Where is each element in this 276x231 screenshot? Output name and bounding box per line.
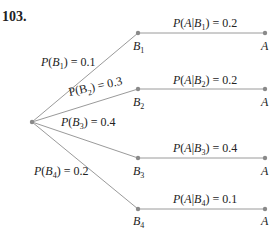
a1-node bbox=[263, 31, 267, 35]
b-symbol: B bbox=[72, 115, 79, 129]
a2-node bbox=[263, 87, 267, 91]
b2-node bbox=[136, 87, 140, 91]
b3-label: B3 bbox=[133, 165, 144, 180]
p-a-given-b4-label: P(A|B4) = 0.1 bbox=[173, 193, 237, 208]
edge-root-b1 bbox=[32, 33, 138, 122]
a-symbol: A bbox=[184, 141, 191, 155]
p-b3-label: P(B3) = 0.4 bbox=[61, 116, 115, 131]
p-a-given-b1-label: P(A|B1) = 0.2 bbox=[173, 17, 237, 32]
p-symbol: P bbox=[173, 16, 180, 30]
p-symbol: P bbox=[173, 192, 180, 206]
a-symbol: A bbox=[184, 73, 191, 87]
p-symbol: P bbox=[61, 115, 68, 129]
a2-label: A bbox=[261, 96, 268, 108]
root-node bbox=[30, 120, 34, 124]
a-symbol: A bbox=[184, 16, 191, 30]
problem-number: 103. bbox=[2, 9, 27, 25]
p-symbol: P bbox=[173, 73, 180, 87]
p-symbol: P bbox=[41, 55, 48, 69]
b4-label: B4 bbox=[133, 215, 144, 230]
p-b1-value: 0.1 bbox=[80, 55, 95, 69]
a3-node bbox=[263, 156, 267, 160]
a3-label: A bbox=[261, 165, 268, 177]
b4-node bbox=[136, 207, 140, 211]
a4-node bbox=[263, 207, 267, 211]
p-b4-value: 0.2 bbox=[73, 164, 88, 178]
p-a-given-b2-value: 0.2 bbox=[222, 73, 237, 87]
p-a-given-b4-value: 0.1 bbox=[222, 192, 237, 206]
p-a-given-b3-label: P(A|B3) = 0.4 bbox=[173, 142, 237, 157]
p-b3-value: 0.4 bbox=[100, 115, 115, 129]
b3-node bbox=[136, 156, 140, 160]
b1-node bbox=[136, 31, 140, 35]
a4-label: A bbox=[261, 215, 268, 227]
p-b2-value: 0.3 bbox=[106, 74, 124, 91]
b2-label: B2 bbox=[133, 96, 144, 111]
a-symbol: A bbox=[184, 192, 191, 206]
p-symbol: P bbox=[173, 141, 180, 155]
p-a-given-b1-value: 0.2 bbox=[222, 16, 237, 30]
b-symbol: B bbox=[45, 164, 52, 178]
p-symbol: P bbox=[34, 164, 41, 178]
b-symbol: B bbox=[52, 55, 59, 69]
probability-tree-diagram: 103. P(B1) = 0.1 P(B2) = 0.3 P(B3) = 0.4… bbox=[0, 0, 276, 231]
a1-label: A bbox=[261, 40, 268, 52]
p-b4-label: P(B4) = 0.2 bbox=[34, 165, 88, 180]
b1-label: B1 bbox=[133, 40, 144, 55]
p-a-given-b3-value: 0.4 bbox=[222, 141, 237, 155]
p-a-given-b2-label: P(A|B2) = 0.2 bbox=[173, 74, 237, 89]
p-b1-label: P(B1) = 0.1 bbox=[41, 56, 95, 71]
